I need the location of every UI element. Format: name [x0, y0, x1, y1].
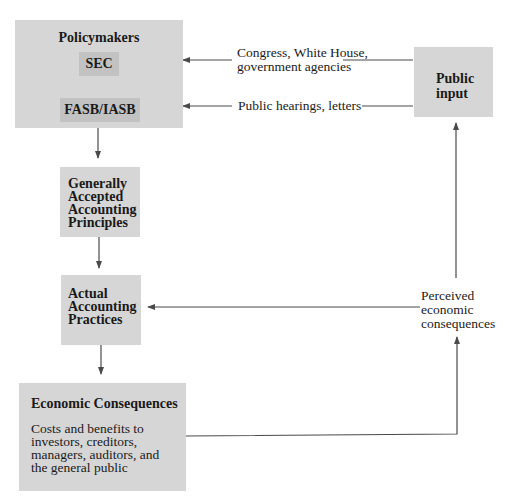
economic-consequences-description: Costs and benefits to investors, credito… [31, 422, 159, 474]
edge-label-perceived: Perceived economic consequences [421, 289, 495, 331]
public-input-title: Public input [436, 71, 474, 101]
gaap-title: Generally Accepted Accounting Principles [68, 177, 136, 229]
fasb-iasb-box: FASB/IASB [60, 98, 140, 122]
sec-label: SEC [85, 56, 112, 72]
economic-consequences-box: Economic Consequences Costs and benefits… [19, 383, 186, 491]
practices-box: Actual Accounting Practices [61, 275, 141, 345]
economic-consequences-title: Economic Consequences [31, 396, 178, 411]
policymakers-box: Policymakers SEC FASB/IASB [15, 20, 183, 128]
edge-label-congress: Congress, White House, government agenci… [237, 46, 368, 74]
gaap-box: Generally Accepted Accounting Principles [60, 167, 140, 237]
fasb-iasb-label: FASB/IASB [64, 102, 135, 118]
edge-label-hearings: Public hearings, letters [238, 99, 361, 113]
policymakers-title: Policymakers [15, 30, 183, 45]
public-input-box: Public input [414, 47, 493, 117]
sec-box: SEC [79, 52, 119, 76]
practices-title: Actual Accounting Practices [68, 287, 136, 326]
